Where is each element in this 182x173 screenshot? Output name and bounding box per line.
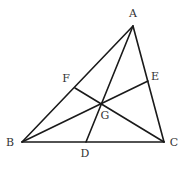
label-D: D xyxy=(81,147,90,160)
segment-CA xyxy=(133,26,164,142)
segment-BE xyxy=(22,81,148,142)
diagram-canvas: A B C D E F G xyxy=(0,0,182,173)
label-G: G xyxy=(101,109,110,122)
segments xyxy=(22,26,164,142)
segment-CF xyxy=(75,88,164,142)
label-A: A xyxy=(128,7,138,20)
segment-AD xyxy=(86,26,133,142)
label-E: E xyxy=(151,70,159,83)
label-F: F xyxy=(62,72,70,85)
label-C: C xyxy=(170,136,178,149)
segment-AB xyxy=(22,26,133,142)
label-B: B xyxy=(6,136,14,149)
triangle-diagram: A B C D E F G xyxy=(0,0,182,173)
